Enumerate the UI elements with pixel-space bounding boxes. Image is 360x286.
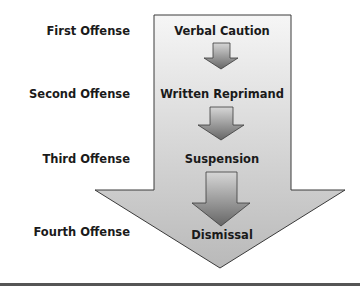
diagram-graphics [0,0,360,286]
offense-label-first: First Offense [0,24,130,38]
offense-label-second: Second Offense [0,87,130,101]
action-written-reprimand: Written Reprimand [142,87,302,101]
offense-label-fourth: Fourth Offense [0,225,130,239]
action-suspension: Suspension [142,152,302,166]
action-verbal-caution: Verbal Caution [142,24,302,38]
offense-label-third: Third Offense [0,152,130,166]
action-dismissal: Dismissal [142,228,302,242]
